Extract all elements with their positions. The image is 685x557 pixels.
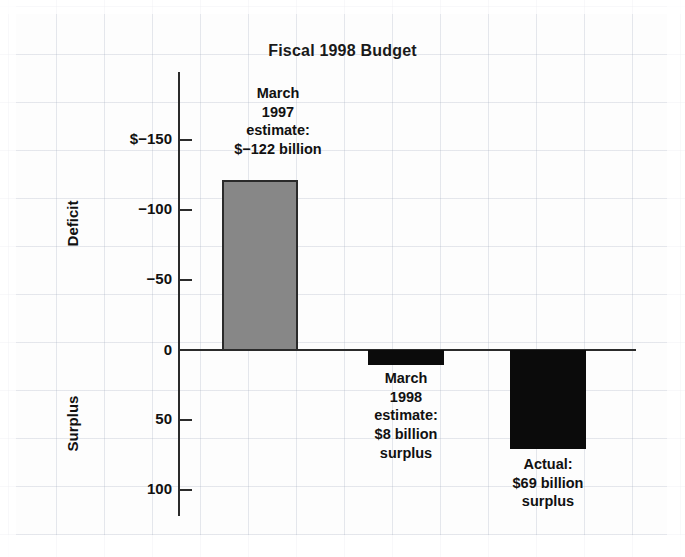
annotation-march-1998-estimate: March 1998 estimate: $8 billion surplus	[340, 369, 472, 463]
annotation-bar1-line1: March	[180, 84, 376, 103]
axis-region-label-deficit: Deficit	[64, 184, 81, 264]
y-tick-neg100	[178, 209, 192, 211]
annotation-march-1997-estimate: March 1997 estimate: $−122 billion	[180, 84, 376, 159]
bar-chart: Fiscal 1998 Budget $−150 −100 −50 0 50 1…	[0, 0, 685, 557]
y-tick-pos50	[178, 419, 192, 421]
y-tick-label-zero: 0	[52, 341, 172, 358]
bar-actual[interactable]	[510, 350, 586, 449]
y-tick-label-pos100: 100	[52, 480, 172, 497]
chart-title: Fiscal 1998 Budget	[0, 42, 685, 60]
annotation-bar3-line1: Actual:	[482, 455, 614, 474]
y-tick-label-neg50-wrap: −50	[48, 270, 172, 288]
annotation-bar3-line2: $69 billion	[482, 474, 614, 493]
y-tick-pos100	[178, 489, 192, 491]
annotation-bar2-line2: 1998	[340, 388, 472, 407]
annotation-bar2-line3: estimate:	[340, 406, 472, 425]
bar-march-1997-estimate[interactable]	[222, 180, 298, 351]
annotation-bar1-line3: estimate:	[180, 121, 376, 140]
annotation-actual: Actual: $69 billion surplus	[482, 455, 614, 511]
annotation-bar2-line5: surplus	[340, 444, 472, 463]
y-tick-label-pos100-wrap: 100	[48, 480, 172, 498]
annotation-bar2-line4: $8 billion	[340, 425, 472, 444]
bar-march-1998-estimate[interactable]	[368, 350, 444, 365]
axis-region-label-surplus: Surplus	[64, 384, 81, 464]
y-tick-label-neg150-wrap: $−150	[48, 130, 172, 148]
y-tick-label-neg50: −50	[52, 270, 172, 287]
annotation-bar1-line2: 1997	[180, 103, 376, 122]
y-tick-label-neg150: $−150	[52, 130, 172, 147]
annotation-bar1-line4: $−122 billion	[180, 140, 376, 159]
annotation-bar3-line3: surplus	[482, 492, 614, 511]
annotation-bar2-line1: March	[340, 369, 472, 388]
y-tick-neg50	[178, 279, 192, 281]
y-tick-label-zero-wrap: 0	[48, 341, 172, 359]
scanned-page: Fiscal 1998 Budget $−150 −100 −50 0 50 1…	[0, 0, 685, 557]
